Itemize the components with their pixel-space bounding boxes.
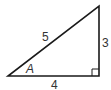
right-triangle-diagram: 5 3 4 A [0, 0, 111, 90]
hypotenuse-label: 5 [42, 30, 49, 44]
angle-label: A [25, 62, 34, 76]
right-angle-marker [92, 69, 99, 76]
triangle [8, 6, 99, 76]
adjacent-side-label: 4 [51, 78, 58, 90]
opposite-side-label: 3 [102, 36, 109, 50]
